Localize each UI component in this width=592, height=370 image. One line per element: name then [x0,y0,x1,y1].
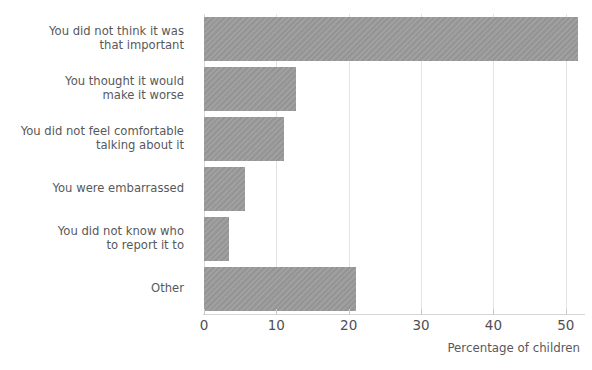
bar-chart: You did not think it was that importantY… [0,0,592,370]
x-tick-50 [566,309,567,315]
x-tick-label-30: 30 [401,317,441,333]
bar[interactable] [204,67,296,111]
bar[interactable] [204,17,578,61]
category-label: You did not feel comfortable talking abo… [0,124,184,152]
x-axis-line [203,314,585,315]
x-tick-label-50: 50 [546,317,586,333]
x-axis-title: Percentage of children [447,341,580,355]
x-tick-label-0: 0 [184,317,224,333]
category-label: You did not know who to report it to [0,224,184,252]
bar[interactable] [204,117,284,161]
bar[interactable] [204,267,356,311]
x-tick-40 [493,309,494,315]
x-tick-10 [276,309,277,315]
category-label: You were embarrassed [0,181,184,195]
category-label: You did not think it was that important [0,24,184,52]
category-axis-labels: You did not think it was that importantY… [0,14,192,314]
bar[interactable] [204,167,245,211]
x-tick-label-40: 40 [473,317,513,333]
x-tick-20 [349,309,350,315]
chart-title-truncated [150,0,450,3]
category-label: Other [0,281,184,295]
x-tick-0 [204,309,205,315]
plot-area [204,14,584,314]
x-tick-30 [421,309,422,315]
bar[interactable] [204,217,229,261]
x-tick-label-20: 20 [329,317,369,333]
category-label: You thought it would make it worse [0,74,184,102]
x-tick-label-10: 10 [256,317,296,333]
